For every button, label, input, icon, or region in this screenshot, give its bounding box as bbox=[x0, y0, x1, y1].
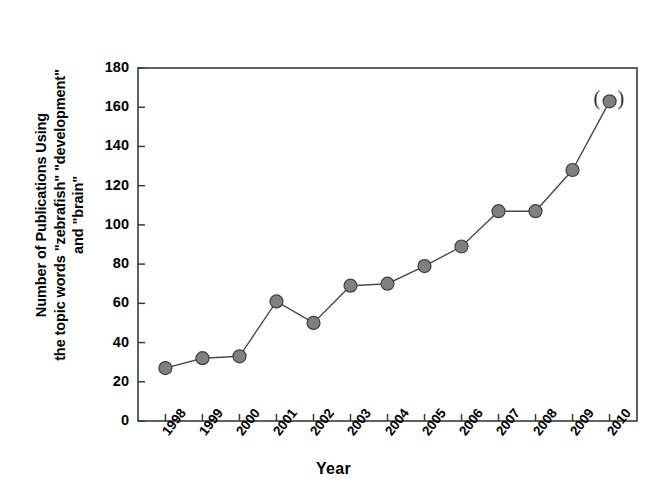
plot-frame bbox=[138, 68, 637, 421]
y-tick-label: 60 bbox=[85, 295, 129, 310]
y-tick-label: 0 bbox=[85, 413, 129, 428]
data-point bbox=[381, 277, 394, 290]
data-point bbox=[492, 205, 505, 218]
annotation-left-paren: ( bbox=[594, 87, 601, 110]
data-markers bbox=[159, 95, 616, 375]
y-tick-label: 140 bbox=[85, 138, 129, 153]
y-tick-label: 80 bbox=[85, 256, 129, 271]
data-point bbox=[344, 279, 357, 292]
data-point bbox=[159, 362, 172, 375]
data-point bbox=[455, 240, 468, 253]
data-point bbox=[603, 95, 616, 108]
y-tick-label: 40 bbox=[85, 335, 129, 350]
y-tick-label: 20 bbox=[85, 374, 129, 389]
data-point bbox=[529, 205, 542, 218]
y-tick-label: 100 bbox=[85, 217, 129, 232]
y-axis-ticks bbox=[138, 68, 145, 421]
y-tick-label: 160 bbox=[85, 99, 129, 114]
data-point bbox=[270, 295, 283, 308]
y-tick-label: 180 bbox=[85, 60, 129, 75]
data-point bbox=[196, 352, 209, 365]
data-point bbox=[307, 316, 320, 329]
data-point bbox=[566, 164, 579, 177]
data-point bbox=[418, 260, 431, 273]
annotation-right-paren: ) bbox=[618, 87, 625, 110]
data-point bbox=[233, 350, 246, 363]
data-line bbox=[165, 101, 609, 368]
chart-figure: Number of Publications Using the topic w… bbox=[0, 0, 667, 498]
y-tick-label: 120 bbox=[85, 178, 129, 193]
x-axis-label: Year bbox=[0, 460, 667, 478]
